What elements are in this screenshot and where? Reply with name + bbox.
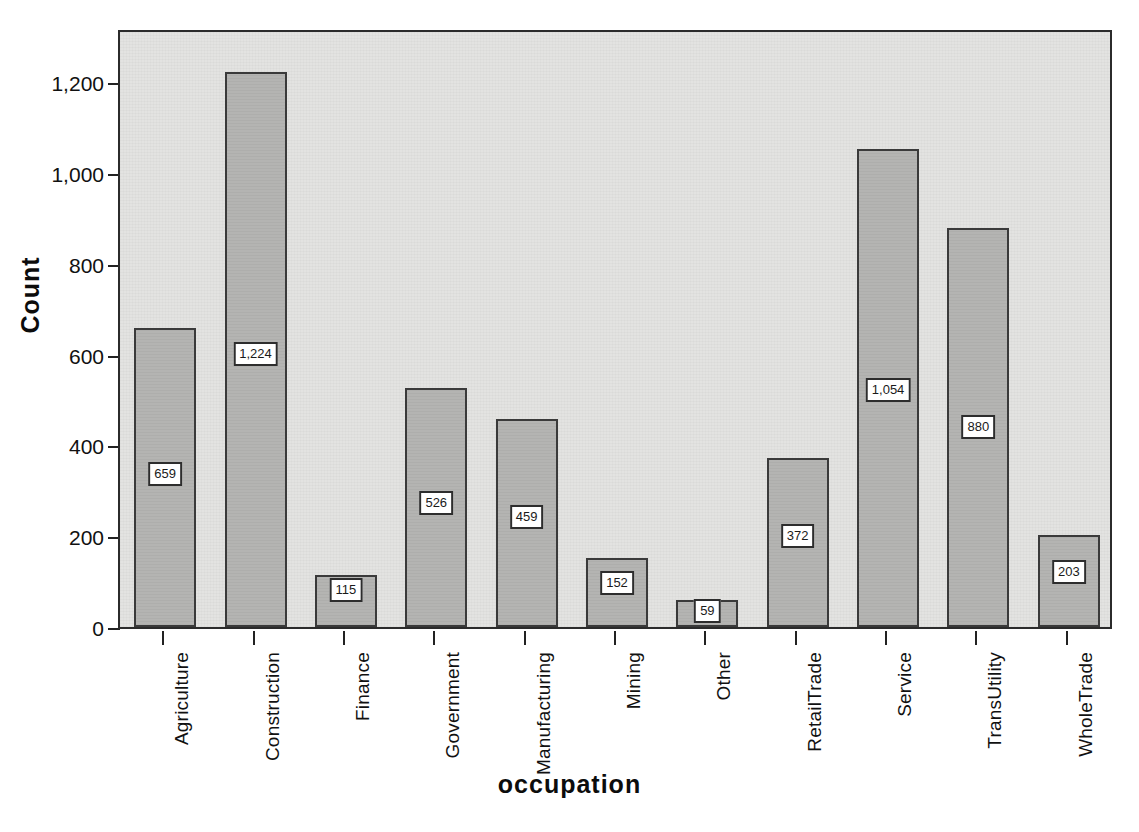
- bar-chart: Count 02004006008001,0001,200 6591,22411…: [0, 0, 1139, 832]
- x-axis-tick-label-mining: Mining: [623, 652, 645, 709]
- x-axis-tick-label-finance: Finance: [352, 652, 374, 721]
- bar-value-label: 372: [781, 524, 815, 548]
- y-axis-tick-label: 400: [69, 435, 104, 459]
- y-axis-tick-label: 0: [92, 617, 104, 641]
- x-axis-tick-mark: [343, 631, 345, 645]
- x-axis-tick-label-government: Government: [442, 652, 464, 759]
- x-axis-tick-mark: [885, 631, 887, 645]
- x-axis-tick-mark: [524, 631, 526, 645]
- bar-value-label: 880: [962, 415, 996, 439]
- x-axis-tick-mark: [253, 631, 255, 645]
- x-axis-tick-mark: [975, 631, 977, 645]
- y-axis-tick-label: 600: [69, 345, 104, 369]
- x-axis-tick-label-wholetrade: WholeTrade: [1075, 652, 1097, 757]
- bar-value-label: 526: [419, 491, 453, 515]
- x-axis-tick-mark: [1066, 631, 1068, 645]
- bar-value-label: 115: [330, 578, 363, 602]
- bar-value-label: 459: [510, 505, 544, 529]
- x-axis-title: occupation: [0, 770, 1139, 799]
- bar-value-label: 1,054: [866, 378, 911, 402]
- y-axis-tick-label: 200: [69, 526, 104, 550]
- y-axis-tick-label: 800: [69, 254, 104, 278]
- bar-value-label: 1,224: [233, 342, 278, 366]
- x-axis-tick-mark: [433, 631, 435, 645]
- x-axis-tick-mark: [614, 631, 616, 645]
- x-axis-tick-label-other: Other: [713, 652, 735, 701]
- x-axis-tick-mark: [704, 631, 706, 645]
- x-axis-tick-label-retailtrade: RetailTrade: [804, 652, 826, 752]
- bar-value-label: 659: [148, 462, 182, 486]
- x-axis-tick-mark: [162, 631, 164, 645]
- x-axis-tick-label-manufacturing: Manufacturing: [533, 652, 555, 775]
- y-axis-tick-labels: 02004006008001,0001,200: [0, 0, 104, 832]
- x-axis-tick-label-service: Service: [894, 652, 916, 717]
- x-axis-tick-label-construction: Construction: [262, 652, 284, 761]
- bar-value-label: 152: [600, 571, 634, 595]
- y-axis-tick-label: 1,000: [51, 163, 104, 187]
- y-axis-tick-label: 1,200: [51, 72, 104, 96]
- plot-area: 6591,224115526459152593721,054880203: [118, 30, 1112, 629]
- x-axis-tick-label-transutility: TransUtility: [984, 652, 1006, 749]
- x-axis-tick-mark: [795, 631, 797, 645]
- bar-value-label: 203: [1052, 560, 1086, 584]
- bar-value-label: 59: [694, 599, 720, 623]
- x-axis-tick-label-agriculture: Agriculture: [171, 652, 193, 745]
